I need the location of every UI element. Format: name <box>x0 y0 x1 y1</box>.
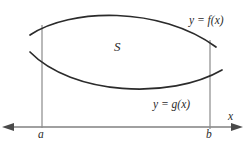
x-tick-label-a: a <box>38 129 44 141</box>
area-between-curves-figure: y = f(x) y = g(x) S a b x <box>0 0 246 149</box>
upper-curve-label: y = f(x) <box>189 15 224 27</box>
region-label-s: S <box>114 40 121 53</box>
curve-lower-g <box>30 52 222 89</box>
lower-curve-label: y = g(x) <box>153 99 190 111</box>
x-axis-left-arrowhead <box>2 123 14 131</box>
x-axis-right-arrowhead <box>231 123 243 131</box>
x-tick-label-b: b <box>206 129 212 141</box>
x-axis-label: x <box>228 111 233 123</box>
